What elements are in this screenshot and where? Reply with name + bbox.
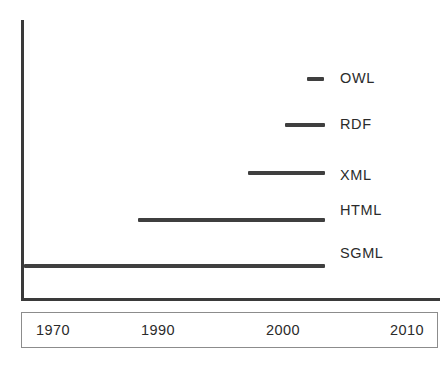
x-tick-label-1970: 1970: [36, 323, 70, 338]
legend-label-xml: XML: [340, 168, 372, 183]
legend-label-sgml: SGML: [340, 246, 384, 261]
x-tick-label-2000: 2000: [266, 323, 300, 338]
y-axis-line: [21, 20, 24, 301]
x-tick-label-2010: 2010: [390, 323, 424, 338]
timeline-bar-xml: [248, 171, 325, 175]
x-axis-line: [21, 298, 440, 301]
legend-label-rdf: RDF: [340, 117, 372, 132]
legend-label-owl: OWL: [340, 71, 375, 86]
timeline-bar-rdf: [285, 123, 325, 127]
timeline-chart: OWLRDFXMLHTMLSGML 1970199020002010: [0, 0, 448, 365]
timeline-bar-owl: [307, 77, 324, 81]
timeline-bar-sgml: [24, 264, 325, 268]
x-tick-label-1990: 1990: [141, 323, 175, 338]
legend-label-html: HTML: [340, 203, 382, 218]
x-axis-tick-box: 1970199020002010: [21, 312, 438, 348]
timeline-bar-html: [138, 218, 325, 222]
